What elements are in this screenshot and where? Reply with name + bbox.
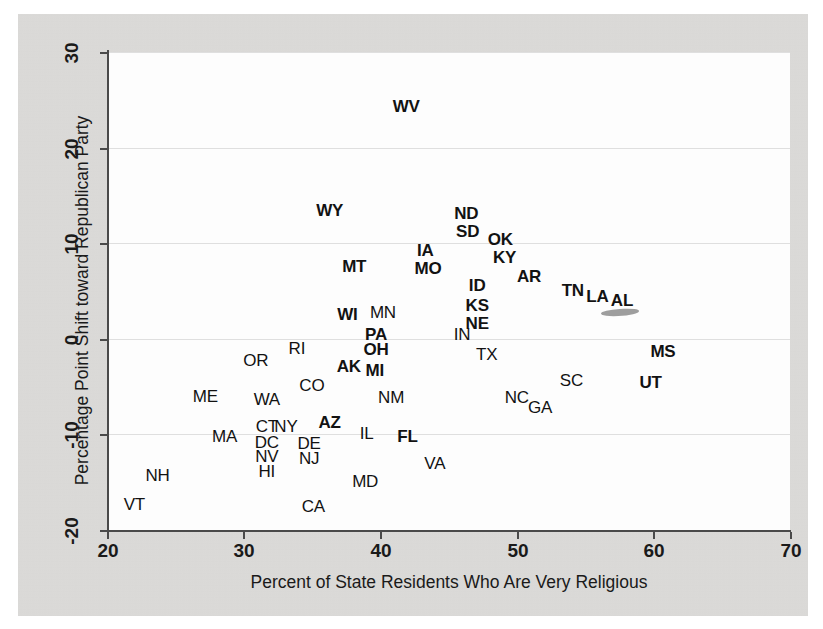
state-label-vt: VT [124,495,145,515]
state-label-al: AL [611,291,633,311]
x-axis-line [107,530,791,532]
state-label-nm: NM [378,388,404,408]
state-label-tx: TX [476,345,497,365]
gridline-20 [109,148,790,149]
state-label-ms: MS [650,342,675,362]
x-tick-60 [653,532,655,539]
state-label-co: CO [299,376,324,396]
state-label-oh: OH [364,340,389,360]
state-label-wv: WV [393,97,420,117]
state-label-in: IN [454,325,471,345]
state-label-az: AZ [319,413,341,433]
plot-canvas [108,52,790,530]
state-label-nj: NJ [299,449,319,469]
state-label-mt: MT [342,257,366,277]
state-label-ia: IA [417,241,434,261]
state-label-ar: AR [517,267,541,287]
state-label-il: IL [360,424,374,444]
state-label-mo: MO [415,259,442,279]
state-label-fl: FL [397,427,417,447]
gridline-10 [109,243,790,244]
x-axis-title: Percent of State Residents Who Are Very … [108,572,790,593]
state-label-nd: ND [454,204,478,224]
x-tick-label-40: 40 [351,540,411,562]
state-label-tn: TN [562,281,584,301]
gridline-30 [109,52,790,53]
state-label-ri: RI [289,339,306,359]
state-label-or: OR [243,351,268,371]
scanned-figure-page: 30 20 10 0 -10 -20 20 30 40 50 60 70 Per… [0,0,823,629]
state-label-ca: CA [302,497,325,517]
state-label-nc: NC [505,388,529,408]
state-label-md: MD [352,472,378,492]
y-tick-0 [100,339,107,341]
y-axis-title: Percentage Point Shift toward Republican… [72,51,93,551]
y-tick-30 [100,52,107,54]
x-tick-label-50: 50 [488,540,548,562]
x-tick-label-30: 30 [214,540,274,562]
x-tick-40 [380,532,382,539]
x-tick-label-60: 60 [624,540,684,562]
state-label-ga: GA [528,398,552,418]
y-tick-20 [100,148,107,150]
state-label-ma: MA [212,427,237,447]
state-label-ky: KY [493,248,516,268]
state-label-nh: NH [145,466,169,486]
y-tick-minus10 [100,434,107,436]
state-label-sc: SC [560,371,583,391]
x-tick-label-70: 70 [761,540,821,562]
state-label-me: ME [193,387,218,407]
state-label-wi: WI [337,305,357,325]
state-label-sd: SD [456,222,479,242]
state-label-va: VA [424,454,445,474]
x-tick-20 [107,532,109,539]
y-tick-10 [100,243,107,245]
y-axis-line [107,50,109,532]
x-tick-50 [517,532,519,539]
state-label-hi: HI [259,462,276,482]
state-label-ok: OK [488,230,513,250]
state-label-wa: WA [254,390,280,410]
gridline-0 [109,339,790,340]
state-label-id: ID [469,276,486,296]
state-label-ak: AK [337,357,361,377]
state-label-mi: MI [365,361,383,381]
x-tick-30 [243,532,245,539]
state-label-la: LA [586,287,608,307]
state-label-mn: MN [370,303,396,323]
state-label-wy: WY [316,201,343,221]
x-tick-70 [790,532,792,539]
state-label-ut: UT [640,373,662,393]
y-tick-minus20 [100,530,107,532]
